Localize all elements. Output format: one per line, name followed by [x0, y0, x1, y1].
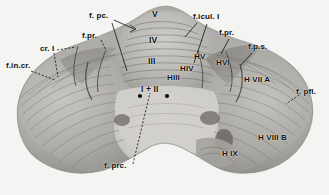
label-h-iv: HIV [180, 65, 194, 73]
leader-cr-i-a [57, 47, 76, 50]
leader-f-in-cr [31, 71, 55, 80]
vermis-dot-left [138, 94, 142, 98]
leader-f-pr-left [101, 40, 106, 50]
anatomical-figure: f.in.cr. cr. I f.pr. f. pc. f.icul. I f.… [0, 0, 329, 195]
label-f-prc: f. prc. [104, 162, 126, 170]
leader-f-icul-a [185, 23, 197, 37]
label-f-pc: f. pc. [89, 12, 108, 20]
label-lobule-iii: III [148, 57, 155, 66]
leader-f-p-s [241, 53, 252, 65]
leader-lines [0, 0, 329, 195]
label-f-pr-left: f.pr. [82, 32, 97, 40]
label-f-icul-i: f.icul. I [193, 13, 219, 21]
label-h-v: HV [194, 53, 205, 61]
leader-f-pc-a [114, 20, 134, 29]
label-h-vi: HVI [216, 59, 230, 67]
label-f-p-s: f.p.s. [248, 43, 267, 51]
label-f-pr-right: f.pr. [219, 29, 234, 37]
label-h-vii-a: H VII A [244, 76, 270, 84]
leader-cr-i-b [54, 53, 58, 77]
vermis-dot-right [165, 94, 169, 98]
label-cr-i: cr. I [40, 45, 54, 53]
label-lobule-v: V [152, 10, 158, 19]
leader-f-pfl [286, 95, 299, 104]
label-f-in-cr: f.in.cr. [6, 62, 30, 70]
leader-f-pr-right [221, 39, 229, 54]
leader-f-prc [133, 93, 150, 164]
vermis-markers [138, 94, 169, 98]
label-lobule-i-ii: I + II [141, 85, 158, 94]
label-h-ix: H IX [222, 150, 238, 158]
label-h-viii-b: H VIII B [258, 134, 287, 142]
label-f-pfl: f. pfl. [296, 88, 316, 96]
label-lobule-iv: IV [149, 36, 157, 45]
leader-f-pc-b [112, 23, 127, 71]
label-h-iii: HIII [167, 74, 180, 82]
